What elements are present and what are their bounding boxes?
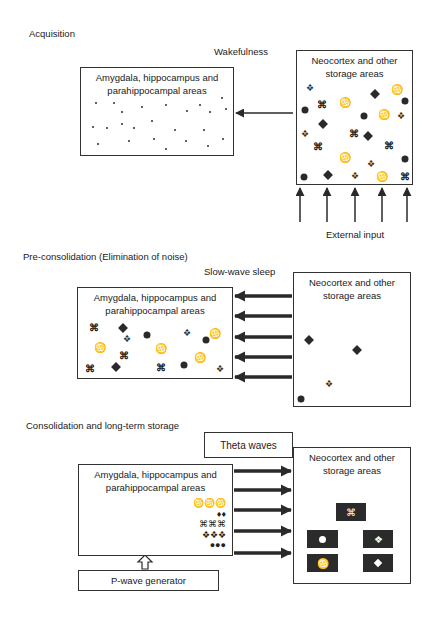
cancer-icon: ♋ <box>155 344 167 353</box>
hippocampus-box-title: Amygdala, hippocampus and parahippocampa… <box>81 72 233 97</box>
pre-consolidation-hippocampus-box: Amygdala, hippocampus and parahippocampa… <box>77 287 233 379</box>
dot-row: ●●● <box>193 540 226 551</box>
acquisition-title: Acquisition <box>29 28 75 39</box>
clover-icon: ❖ <box>351 172 359 181</box>
stored-cancer-tile: ♋ <box>307 554 338 572</box>
cancer-icon: ♋ <box>376 172 388 181</box>
dot-icon <box>402 98 409 105</box>
dot-icon <box>144 332 151 339</box>
external-input-label: External input <box>326 229 384 240</box>
clover-icon: ❖ <box>367 160 375 169</box>
clover-icon: ❖ <box>374 534 383 545</box>
clover-icon: ❖ <box>306 84 314 93</box>
command-icon: ⌘ <box>89 323 99 332</box>
diamond-icon <box>318 119 328 129</box>
pre-consolidation-neocortex-box: Neocortex and other storage areas ❖ <box>293 272 411 407</box>
slow-wave-sleep-label: Slow-wave sleep <box>204 266 275 277</box>
dot-icon <box>301 174 308 181</box>
diamond-icon <box>111 362 121 372</box>
dot-icon <box>319 536 326 543</box>
dot-icon <box>402 156 409 163</box>
cancer-icon: ♋ <box>194 353 206 362</box>
clover-icon: ❖ <box>216 365 224 374</box>
command-icon: ⌘ <box>400 172 410 181</box>
consolidation-neocortex-box: Neocortex and other storage areas ⌘ ❖ ♋ <box>293 447 411 584</box>
diamond-icon <box>374 559 382 567</box>
p-wave-generator-label: P-wave generator <box>111 575 186 586</box>
cancer-row: ♋♋♋ <box>193 498 226 509</box>
clover-icon: ❖ <box>325 380 333 389</box>
dot-icon <box>298 396 305 403</box>
command-icon: ⌘ <box>313 142 323 151</box>
hippocampus-box-title: Amygdala, hippocampus and parahippocampa… <box>79 469 232 494</box>
diamond-icon <box>304 335 314 345</box>
cancer-icon: ♋ <box>209 329 221 338</box>
command-icon: ⌘ <box>119 351 129 360</box>
wakefulness-label: Wakefulness <box>214 46 268 57</box>
theta-waves-label: Theta waves <box>220 440 277 451</box>
stored-diamond-tile <box>363 554 393 572</box>
neocortex-box-title: Neocortex and other storage areas <box>294 452 410 477</box>
clover-icon: ❖ <box>397 112 405 121</box>
neocortex-box-title: Neocortex and other storage areas <box>297 55 412 80</box>
external-input-arrows <box>300 188 407 222</box>
p-wave-arrow <box>138 555 152 569</box>
cancer-icon: ♋ <box>317 558 329 569</box>
diamond-icon <box>352 345 362 355</box>
clover-icon: ❖ <box>183 329 191 338</box>
clover-icon: ❖ <box>123 335 131 344</box>
clover-icon: ❖ <box>301 130 309 139</box>
stored-command-tile: ⌘ <box>336 503 366 521</box>
theta-waves-box: Theta waves <box>204 432 293 458</box>
command-row: ⌘⌘⌘ <box>193 519 226 530</box>
consolidation-title: Consolidation and long-term storage <box>26 420 179 431</box>
cancer-icon: ♋ <box>391 85 403 94</box>
dot-icon <box>302 107 309 114</box>
hippocampus-box-title: Amygdala, hippocampus and parahippocampa… <box>78 292 232 317</box>
neocortex-box-title: Neocortex and other storage areas <box>294 277 410 302</box>
acquisition-hippocampus-box: Amygdala, hippocampus and parahippocampa… <box>80 67 234 156</box>
dot-icon <box>361 113 368 120</box>
pre-consolidation-title: Pre-consolidation (Elimination of noise) <box>23 251 188 262</box>
cancer-icon: ♋ <box>94 343 106 352</box>
cancer-icon: ♋ <box>378 110 390 119</box>
command-icon: ⌘ <box>349 129 359 138</box>
consolidation-hippocampus-box: Amygdala, hippocampus and parahippocampa… <box>78 464 233 556</box>
pre-consolidation-arrows <box>235 296 292 377</box>
diamond-icon <box>118 323 128 333</box>
cancer-icon: ♋ <box>339 153 351 162</box>
command-icon: ⌘ <box>85 364 95 373</box>
diamond-icon <box>363 131 373 141</box>
dot-icon <box>181 362 188 369</box>
command-icon: ⌘ <box>346 507 356 518</box>
command-icon: ⌘ <box>384 141 394 150</box>
sorted-memory-stack: ♋♋♋ ♦♦ ⌘⌘⌘ ❖❖❖ ●●● <box>193 498 226 551</box>
cancer-icon: ♋ <box>339 98 351 107</box>
p-wave-generator-box: P-wave generator <box>78 570 219 591</box>
consolidation-arrows <box>234 471 291 553</box>
stored-clover-tile: ❖ <box>363 530 393 548</box>
diamond-row: ♦♦ <box>193 509 226 520</box>
stored-dot-tile <box>307 530 338 548</box>
diamond-icon <box>370 89 380 99</box>
clover-row: ❖❖❖ <box>193 530 226 541</box>
diamond-icon <box>323 170 333 180</box>
command-icon: ⌘ <box>317 100 327 109</box>
command-icon: ⌘ <box>156 363 166 372</box>
acquisition-neocortex-box: Neocortex and other storage areas ❖ ⌘ ♋ … <box>296 50 413 185</box>
